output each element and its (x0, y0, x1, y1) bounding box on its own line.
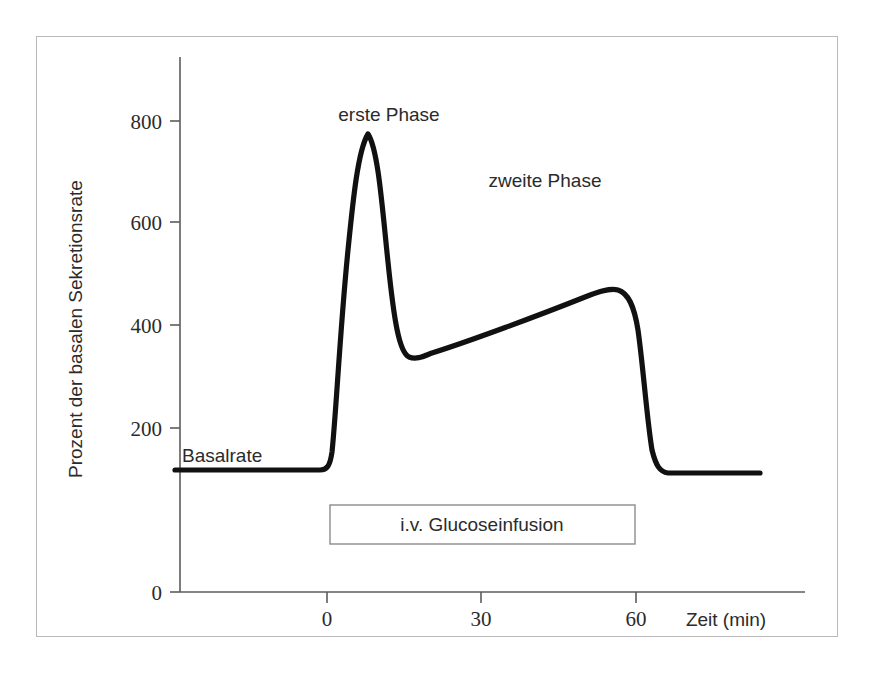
insulin-secretion-chart: 800 600 400 200 0 Prozent der basalen Se… (0, 0, 871, 682)
y-tick-label-600: 600 (131, 211, 163, 235)
y-tick-label-800: 800 (131, 110, 163, 134)
annotation-erste-phase: erste Phase (338, 104, 439, 125)
y-axis-title: Prozent der basalen Sekretionsrate (65, 180, 86, 478)
x-axis-title: Zeit (min) (686, 609, 766, 630)
y-tick-label-400: 400 (131, 314, 163, 338)
infusion-box-label: i.v. Glucoseinfusion (400, 514, 563, 535)
x-tick-label-0: 0 (322, 607, 333, 631)
y-tick-label-200: 200 (131, 417, 163, 441)
annotation-basalrate: Basalrate (182, 445, 262, 466)
annotation-zweite-phase: zweite Phase (488, 170, 601, 191)
x-tick-label-60: 60 (626, 607, 647, 631)
secretion-rate-curve (175, 134, 760, 473)
y-tick-label-0: 0 (152, 581, 163, 605)
x-tick-label-30: 30 (471, 607, 492, 631)
figure-root: 800 600 400 200 0 Prozent der basalen Se… (0, 0, 871, 682)
